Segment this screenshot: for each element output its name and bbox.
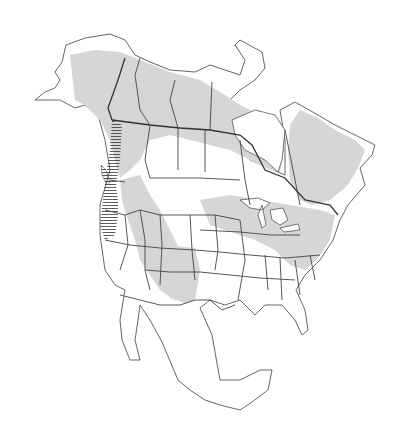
range-map xyxy=(0,0,412,448)
north-america-map-svg xyxy=(0,0,412,448)
